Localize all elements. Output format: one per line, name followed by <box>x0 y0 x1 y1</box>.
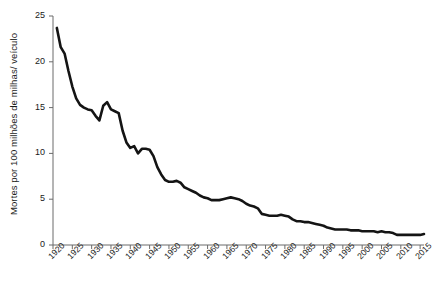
y-tick-label: 10 <box>21 147 45 157</box>
y-axis-label-container: Mortes por 100 milhões de milhas/ veícul… <box>0 0 26 248</box>
y-tick-label: 5 <box>21 193 45 203</box>
y-axis-label: Mortes por 100 milhões de milhas/ veícul… <box>8 33 19 215</box>
y-tick-label: 0 <box>21 239 45 249</box>
series-line <box>57 28 424 235</box>
data-series <box>57 28 424 235</box>
y-tick-label: 15 <box>21 102 45 112</box>
chart-figure: Mortes por 100 milhões de milhas/ veícul… <box>0 0 433 291</box>
y-tick-label: 25 <box>21 10 45 20</box>
y-tick-label: 20 <box>21 56 45 66</box>
axis-spine <box>53 16 424 245</box>
axes <box>49 16 424 249</box>
